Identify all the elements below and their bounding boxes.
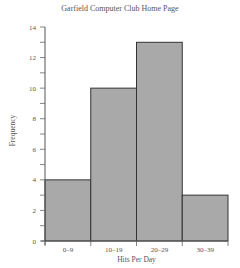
x-category-label: 20–29: [151, 246, 169, 254]
x-category-label: 10–19: [105, 246, 123, 254]
y-tick-label: 4: [33, 176, 37, 184]
y-tick-label: 12: [29, 54, 37, 62]
y-tick-label: 0: [33, 238, 37, 246]
y-tick-label: 6: [33, 146, 37, 154]
y-tick-label: 2: [33, 207, 37, 215]
histogram-bar: [91, 88, 137, 241]
x-category-label: 0–9: [63, 246, 74, 254]
x-category-label: 30–39: [196, 246, 214, 254]
histogram-bar: [182, 195, 228, 241]
histogram-bar: [137, 42, 183, 241]
histogram-plot: 024681012140–910–1920–2930–39: [0, 0, 240, 268]
y-tick-label: 8: [33, 115, 37, 123]
y-tick-label: 10: [29, 85, 37, 93]
histogram-bar: [45, 180, 91, 241]
y-tick-label: 14: [29, 24, 37, 32]
